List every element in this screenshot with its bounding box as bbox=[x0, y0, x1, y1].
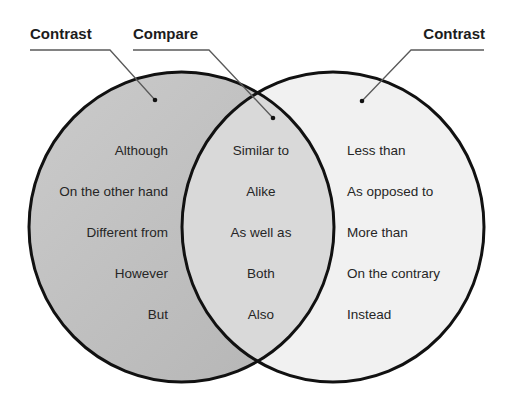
venn-graphic bbox=[0, 0, 514, 404]
list-item: As well as bbox=[201, 225, 321, 241]
list-item: Less than bbox=[347, 143, 406, 159]
list-item: But bbox=[148, 307, 168, 323]
list-item: As opposed to bbox=[347, 184, 433, 200]
list-item: Although bbox=[115, 143, 168, 159]
list-item: Different from bbox=[86, 225, 168, 241]
label-contrast-right: Contrast bbox=[402, 25, 485, 43]
list-item: Also bbox=[201, 307, 321, 323]
list-item: Both bbox=[201, 266, 321, 282]
label-contrast-left: Contrast bbox=[30, 25, 92, 43]
list-item: However bbox=[115, 266, 168, 282]
list-item: More than bbox=[347, 225, 408, 241]
list-item: Instead bbox=[347, 307, 391, 323]
label-compare: Compare bbox=[133, 25, 198, 43]
list-item: On the contrary bbox=[347, 266, 440, 282]
list-item: Alike bbox=[201, 184, 321, 200]
list-item: Similar to bbox=[201, 143, 321, 159]
list-item: On the other hand bbox=[59, 184, 168, 200]
venn-diagram: Contrast Compare Contrast Although On th… bbox=[0, 0, 514, 404]
